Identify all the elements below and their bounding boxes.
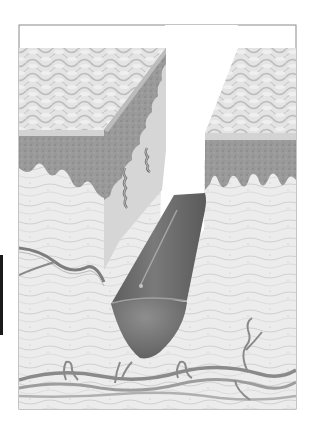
skin-illustration bbox=[0, 0, 314, 434]
